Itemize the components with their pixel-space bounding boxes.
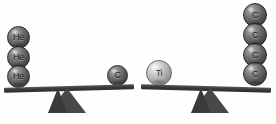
sphere-shading bbox=[248, 80, 263, 84]
figure-canvas: He He He C Ti bbox=[0, 0, 276, 124]
sphere-ti: Ti bbox=[146, 60, 172, 86]
sphere-shading bbox=[11, 82, 25, 86]
balance-scale-left: He He He C bbox=[0, 0, 138, 124]
sphere-highlight bbox=[12, 69, 19, 74]
sphere-highlight bbox=[248, 27, 255, 33]
balance-scale-right: Ti C C C C bbox=[138, 0, 276, 124]
sphere-label: C bbox=[114, 71, 120, 80]
sphere-highlight bbox=[151, 64, 159, 70]
sphere-label: He bbox=[13, 72, 24, 81]
sphere-highlight bbox=[248, 7, 255, 13]
sphere-highlight bbox=[248, 66, 255, 72]
sphere-label: He bbox=[13, 53, 24, 62]
sphere-shading bbox=[151, 79, 167, 84]
sphere-label: He bbox=[13, 33, 24, 42]
sphere-label: C bbox=[252, 51, 258, 60]
fulcrum-triangle-left bbox=[48, 88, 86, 113]
sphere-label: C bbox=[252, 70, 258, 79]
sphere-label: Ti bbox=[156, 69, 163, 78]
sphere-c-left-balance: C bbox=[107, 65, 128, 86]
sphere-highlight bbox=[12, 30, 19, 35]
fulcrum-triangle-right bbox=[191, 88, 229, 113]
sphere-label: C bbox=[252, 31, 258, 40]
sphere-highlight bbox=[111, 69, 117, 74]
sphere-he-bottom: He bbox=[7, 65, 30, 88]
sphere-label: C bbox=[252, 11, 258, 20]
sphere-c-right-4: C bbox=[243, 62, 267, 86]
sphere-highlight bbox=[248, 47, 255, 53]
sphere-highlight bbox=[12, 50, 19, 55]
